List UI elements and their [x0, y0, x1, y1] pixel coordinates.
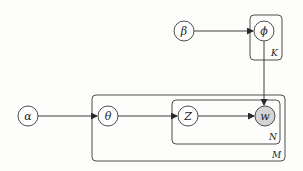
node-beta-label: β: [180, 25, 187, 38]
node-beta: β: [174, 21, 194, 41]
diagram-svg: K M N α θ Z: [0, 0, 303, 171]
node-phi: ϕ: [254, 21, 274, 41]
plate-n-label: N: [268, 132, 278, 142]
edges: [38, 31, 264, 116]
plate-m: M: [92, 95, 285, 161]
node-w-label: w: [260, 110, 270, 123]
node-alpha: α: [18, 106, 38, 126]
node-phi-label: ϕ: [260, 25, 268, 38]
plate-m-label: M: [271, 150, 282, 160]
plate-k-label: K: [270, 48, 279, 58]
node-z: Z: [178, 106, 198, 126]
node-theta-label: θ: [105, 110, 112, 123]
node-z-label: Z: [183, 110, 192, 123]
node-w-observed: w: [255, 106, 275, 126]
node-theta: θ: [98, 106, 118, 126]
node-alpha-label: α: [24, 110, 32, 123]
lda-plate-diagram: K M N α θ Z: [0, 0, 303, 171]
